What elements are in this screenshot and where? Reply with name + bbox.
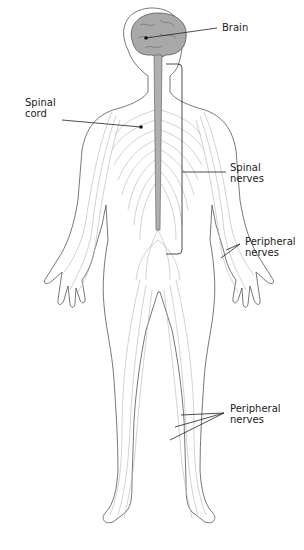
label-peripheral-nerves-arm: Peripheral nerves [245, 236, 296, 258]
spinal-cord-illustration [154, 55, 162, 230]
label-spinal-cord: Spinal cord [25, 97, 56, 119]
label-spinal-nerves: Spinal nerves [230, 162, 264, 184]
label-brain: Brain [222, 22, 248, 33]
brain-illustration [131, 13, 186, 58]
leader-lines [62, 28, 240, 440]
label-peripheral-nerves-leg: Peripheral nerves [230, 403, 281, 425]
nervous-system-diagram [0, 0, 304, 550]
